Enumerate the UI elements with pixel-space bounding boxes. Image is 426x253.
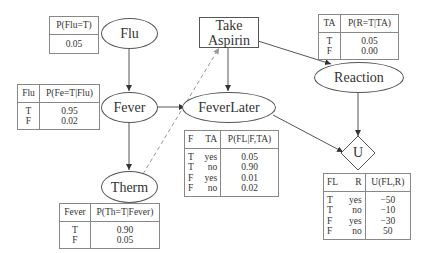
cpt-fever-later-cell: T bbox=[185, 162, 199, 173]
cpt-fever-later: F TA P(FL|F,TA) T yes 0.05 T no 0.90 F y… bbox=[184, 130, 279, 197]
cpt-therm-cell: 0.05 bbox=[90, 235, 159, 248]
cpt-fever-later-header-prob: P(FL|F,TA) bbox=[221, 131, 279, 149]
cpt-reaction-cell: 0.00 bbox=[340, 46, 398, 59]
cpt-therm-header-parent: Fever bbox=[60, 204, 91, 222]
node-utility-label: U bbox=[353, 145, 363, 161]
cpt-therm-header-prob: P(Th=T|Fever) bbox=[90, 204, 159, 222]
utility-table-cell: −30 bbox=[365, 216, 410, 227]
cpt-reaction: TA P(R=T|TA) T 0.05 F 0.00 bbox=[318, 14, 399, 60]
node-fever-label: Fever bbox=[114, 100, 146, 115]
utility-table-cell: −50 bbox=[365, 191, 410, 205]
cpt-fever-cell: 0.95 bbox=[39, 102, 99, 116]
utility-table: FL R U(FL,R) T yes −50 T no −10 F yes −3… bbox=[323, 173, 411, 240]
cpt-fever-later-cell: T bbox=[185, 148, 199, 162]
cpt-fever-later-cell: 0.05 bbox=[221, 148, 279, 162]
cpt-flu: P(Flu=T) 0.05 bbox=[49, 16, 99, 54]
node-take-aspirin-line1: Take bbox=[215, 18, 242, 33]
cpt-fever-later-cell: 0.02 bbox=[221, 183, 279, 196]
node-fever-later-label: FeverLater bbox=[198, 100, 259, 115]
cpt-fever-later-cell: yes bbox=[199, 148, 221, 162]
cpt-reaction-cell: T bbox=[319, 32, 341, 46]
cpt-therm: Fever P(Th=T|Fever) T 0.90 F 0.05 bbox=[59, 203, 160, 249]
utility-table-header-u: U(FL,R) bbox=[365, 174, 410, 192]
cpt-therm-cell: T bbox=[60, 221, 91, 235]
cpt-therm-cell: 0.90 bbox=[90, 221, 159, 235]
cpt-reaction-cell: F bbox=[319, 46, 341, 59]
utility-table-cell: 50 bbox=[365, 226, 410, 239]
cpt-reaction-header-parent: TA bbox=[319, 15, 341, 33]
node-therm: Therm bbox=[101, 171, 158, 203]
cpt-fever-later-cell: yes bbox=[199, 173, 221, 184]
node-flu: Flu bbox=[101, 18, 158, 49]
cpt-therm-cell: F bbox=[60, 235, 91, 248]
cpt-fever-later-cell: no bbox=[199, 183, 221, 196]
cpt-fever-later-cell: 0.90 bbox=[221, 162, 279, 173]
utility-table-cell: yes bbox=[343, 191, 365, 205]
cpt-fever-later-header-ta: TA bbox=[199, 131, 221, 149]
node-therm-label: Therm bbox=[111, 180, 148, 195]
cpt-fever: Flu P(Fe=T|Flu) T 0.95 F 0.02 bbox=[17, 84, 100, 130]
utility-table-header-r: R bbox=[343, 174, 365, 192]
utility-table-cell: T bbox=[324, 205, 344, 216]
utility-table-cell: F bbox=[324, 216, 344, 227]
cpt-flu-value: 0.05 bbox=[50, 34, 99, 54]
node-take-aspirin-line2: Aspirin bbox=[208, 33, 250, 48]
cpt-fever-later-cell: F bbox=[185, 183, 199, 196]
utility-table-cell: no bbox=[343, 205, 365, 216]
node-reaction: Reaction bbox=[314, 62, 404, 93]
utility-table-cell: −10 bbox=[365, 205, 410, 216]
cpt-flu-header: P(Flu=T) bbox=[50, 17, 99, 35]
node-fever-later: FeverLater bbox=[182, 92, 276, 123]
cpt-fever-cell: F bbox=[18, 116, 40, 129]
cpt-fever-later-cell: F bbox=[185, 173, 199, 184]
node-fever: Fever bbox=[101, 92, 158, 123]
cpt-fever-later-cell: 0.01 bbox=[221, 173, 279, 184]
utility-table-cell: no bbox=[343, 226, 365, 239]
cpt-fever-header-parent: Flu bbox=[18, 85, 40, 103]
cpt-fever-header-prob: P(Fe=T|Flu) bbox=[39, 85, 99, 103]
cpt-reaction-header-prob: P(R=T|TA) bbox=[340, 15, 398, 33]
node-flu-label: Flu bbox=[120, 26, 139, 41]
utility-table-cell: yes bbox=[343, 216, 365, 227]
cpt-fever-cell: T bbox=[18, 102, 40, 116]
node-reaction-label: Reaction bbox=[334, 70, 384, 85]
utility-table-cell: F bbox=[324, 226, 344, 239]
cpt-fever-later-cell: no bbox=[199, 162, 221, 173]
node-take-aspirin: Take Aspirin bbox=[199, 17, 259, 48]
cpt-reaction-cell: 0.05 bbox=[340, 32, 398, 46]
cpt-fever-later-header-f: F bbox=[185, 131, 199, 149]
utility-table-header-fl: FL bbox=[324, 174, 344, 192]
cpt-fever-cell: 0.02 bbox=[39, 116, 99, 129]
edge-feverlater-u bbox=[273, 115, 343, 152]
utility-table-cell: T bbox=[324, 191, 344, 205]
